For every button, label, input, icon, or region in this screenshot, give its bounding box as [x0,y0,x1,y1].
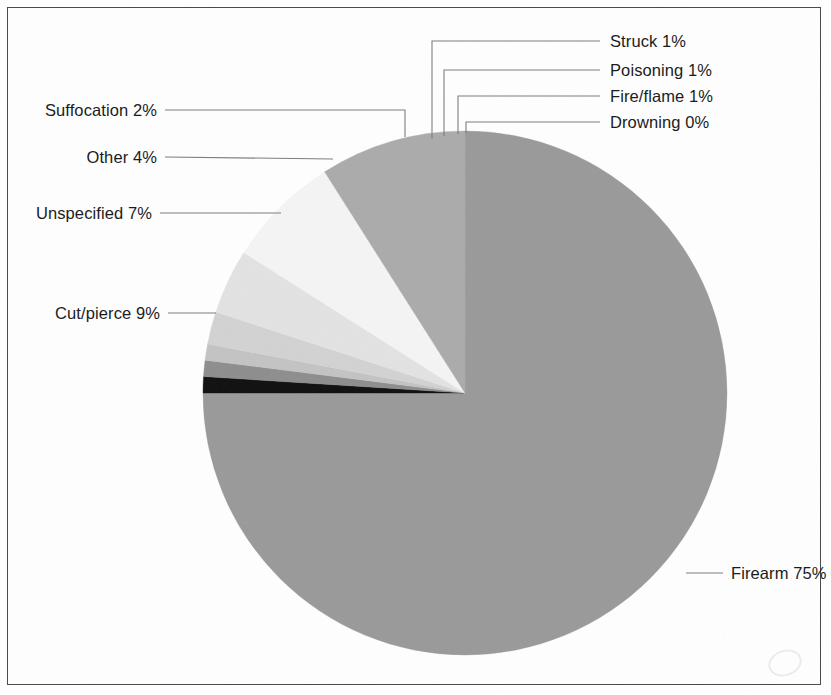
pie-label-struck: Struck 1% [610,32,686,51]
leader-line-suffocation [165,110,405,137]
chart-figure: Struck 1% Poisoning 1% Fire/flame 1% Dro… [0,0,831,695]
pie-label-suffocation: Suffocation 2% [0,101,157,120]
leader-line-fire-flame [458,96,600,134]
leader-line-poisoning [444,70,600,136]
pie-label-fire-flame: Fire/flame 1% [610,87,713,106]
leader-line-other [165,157,333,159]
pie-label-firearm: Firearm 75% [731,564,827,583]
leader-line-struck [432,41,600,139]
pie-label-cut-pierce: Cut/pierce 9% [0,304,160,323]
pie-label-other: Other 4% [0,148,157,167]
leader-line-drowning [466,122,600,133]
pie-label-poisoning: Poisoning 1% [610,61,712,80]
pie-chart-plot-area: Struck 1% Poisoning 1% Fire/flame 1% Dro… [0,0,831,695]
pie-label-drowning: Drowning 0% [610,113,709,132]
pie-label-unspecified: Unspecified 7% [0,204,152,223]
